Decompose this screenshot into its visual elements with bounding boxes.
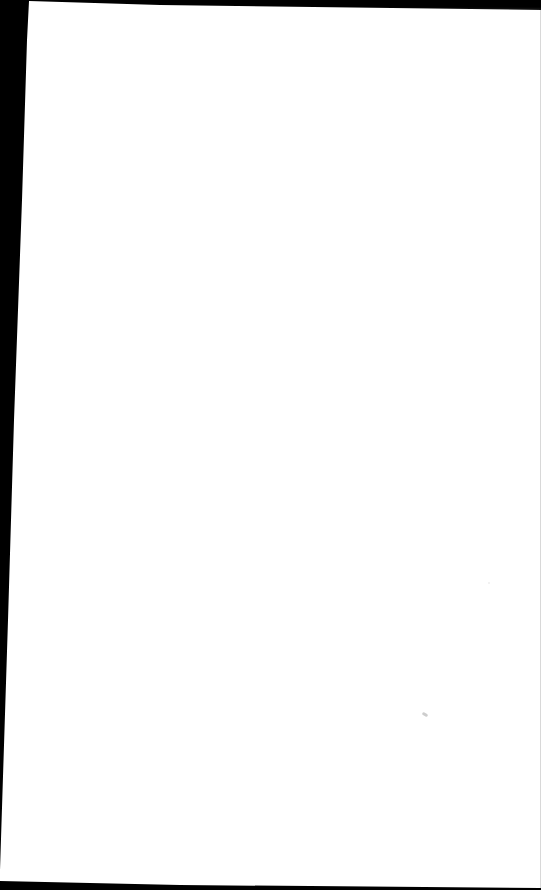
scan-speck <box>488 582 490 584</box>
scanned-document <box>0 0 541 890</box>
blank-page <box>0 0 541 890</box>
